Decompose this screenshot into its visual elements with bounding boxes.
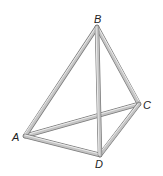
edge-ad [25, 135, 100, 155]
label-d: D [95, 158, 103, 170]
edges [24, 27, 140, 155]
label-a: A [11, 131, 19, 143]
label-c: C [143, 99, 151, 111]
edge-bd [96, 27, 100, 155]
edge-bc [97, 27, 140, 104]
label-b: B [94, 13, 101, 25]
tetrahedron-diagram: B C A D [0, 0, 163, 176]
